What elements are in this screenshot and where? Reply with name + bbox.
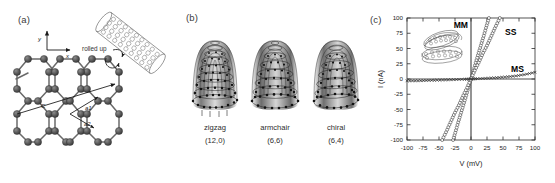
tube-chiral-indices: (6,4) — [328, 136, 344, 145]
rolled-up-label: rolled up — [82, 45, 107, 53]
coordinate-axes: y x — [37, 31, 70, 59]
nanotube-cylinder — [93, 10, 168, 76]
panel-b: (b) — [180, 0, 370, 183]
curve-label-ms: MS — [511, 64, 524, 74]
tube-zigzag-indices: (12,0) — [205, 136, 225, 145]
nanotube-chiral: chiral (6,4) — [313, 40, 360, 145]
svg-text:75: 75 — [396, 29, 403, 36]
axis-y-label: y — [37, 36, 42, 42]
svg-text:100: 100 — [530, 144, 541, 151]
iv-chart: -100-75-50-250255075100 -100-75-50-25025… — [365, 0, 555, 183]
svg-text:50: 50 — [396, 45, 403, 52]
axis-x-label: x — [65, 53, 70, 59]
panel-b-graphic: zigzag (12,0) — [180, 0, 370, 183]
svg-text:25: 25 — [484, 144, 491, 151]
graphene-lattice — [13, 55, 122, 145]
figure-carbon-nanotubes: (a) — [0, 0, 555, 183]
svg-text:-75: -75 — [394, 121, 404, 128]
svg-text:-50: -50 — [394, 106, 404, 113]
nanotube-zigzag: zigzag (12,0) — [192, 40, 239, 145]
tube-chiral-name: chiral — [327, 123, 345, 132]
svg-text:0: 0 — [469, 144, 473, 151]
tube-zigzag-name: zigzag — [204, 123, 226, 132]
svg-text:-100: -100 — [401, 144, 414, 151]
svg-text:25: 25 — [396, 60, 403, 67]
svg-text:-25: -25 — [451, 144, 461, 151]
curve-label-ss: SS — [505, 27, 517, 37]
svg-text:-75: -75 — [419, 144, 429, 151]
panel-a-graphic: y x — [0, 0, 185, 183]
svg-text:-100: -100 — [391, 136, 404, 143]
panel-c-label: (c) — [370, 14, 382, 25]
lattice-vector-a2-label: a2 — [84, 121, 91, 127]
svg-text:0: 0 — [400, 75, 404, 82]
lattice-vector-a1-label: a1 — [85, 105, 92, 111]
chiral-vector-label: C — [41, 103, 46, 109]
tube-armchair-name: armchair — [260, 123, 290, 132]
chiral-vector-group: C a1 a2 — [17, 84, 115, 128]
svg-text:75: 75 — [516, 144, 523, 151]
svg-text:50: 50 — [500, 144, 507, 151]
curve-label-mm: MM — [454, 20, 468, 30]
panel-a: (a) — [0, 0, 185, 183]
y-axis-title: I (nA) — [376, 70, 385, 88]
panel-c: (c) -100-75-50-250255075100 -100-75-50-2… — [365, 0, 555, 183]
nanotube-armchair: armchair (6,6) — [251, 40, 300, 145]
svg-text:-50: -50 — [435, 144, 445, 151]
tube-armchair-indices: (6,6) — [267, 136, 283, 145]
svg-text:100: 100 — [393, 14, 404, 21]
panel-b-label: (b) — [186, 12, 198, 23]
x-axis-title: V (mV) — [460, 159, 483, 168]
svg-text:-25: -25 — [394, 90, 404, 97]
panel-a-label: (a) — [18, 14, 30, 25]
